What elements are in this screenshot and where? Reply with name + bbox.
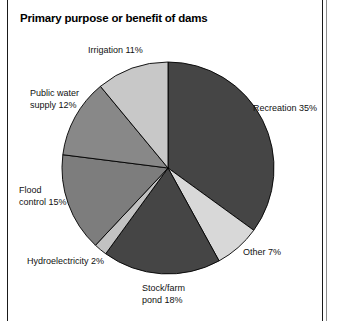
pie-label-public-water-supply: Public water supply 12% <box>30 88 79 111</box>
pie-chart <box>0 0 337 321</box>
pie-label-irrigation: Irrigation 11% <box>88 45 143 57</box>
pie-label-other: Other 7% <box>243 247 281 259</box>
pie-label-hydroelectricity: Hydroelectricity 2% <box>27 256 104 268</box>
pie-label-flood-control: Flood control 15% <box>19 185 67 208</box>
pie-slice-group <box>62 62 274 274</box>
pie-chart-svg <box>0 0 337 321</box>
pie-label-recreation: Recreation 35% <box>253 103 317 115</box>
figure-container: Primary purpose or benefit of dams Recre… <box>0 0 337 321</box>
pie-label-stock-farm-pond: Stock/farm pond 18% <box>142 283 185 306</box>
